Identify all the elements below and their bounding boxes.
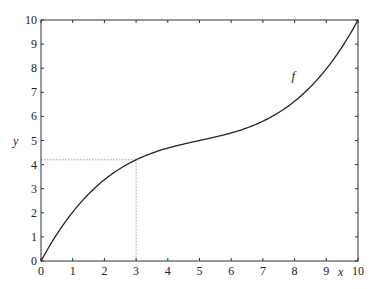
y-tick-label: 9: [31, 37, 37, 51]
y-tick-label: 6: [31, 109, 37, 123]
x-tick-label: 4: [165, 264, 171, 278]
x-tick-label: 8: [292, 264, 298, 278]
x-tick-label: 9: [323, 264, 329, 278]
y-tick-label: 2: [31, 206, 37, 220]
x-tick-label: 2: [101, 264, 107, 278]
y-tick-label: 1: [31, 230, 37, 244]
y-tick-label: 10: [25, 13, 37, 27]
y-tick-label: 5: [31, 134, 37, 148]
y-tick-label: 3: [31, 182, 37, 196]
x-axis-label: x: [337, 265, 344, 279]
x-axis-ticks: 012345678910: [38, 20, 364, 278]
y-tick-label: 4: [31, 158, 37, 172]
x-tick-label: 7: [260, 264, 266, 278]
x-tick-label: 1: [70, 264, 76, 278]
x-tick-label: 3: [133, 264, 139, 278]
chart: 012345678910 012345678910 f y x: [0, 0, 379, 289]
x-tick-label: 5: [197, 264, 203, 278]
curve-f: [41, 20, 358, 261]
x-tick-label: 6: [228, 264, 234, 278]
x-tick-label: 0: [38, 264, 44, 278]
y-tick-label: 0: [31, 254, 37, 268]
y-axis-ticks: 012345678910: [25, 13, 358, 268]
y-axis-label: y: [12, 134, 19, 148]
y-tick-label: 7: [31, 85, 37, 99]
dotted-guide-lines: [41, 160, 136, 261]
curve-label-f: f: [291, 68, 297, 83]
x-tick-label: 10: [352, 264, 364, 278]
y-tick-label: 8: [31, 61, 37, 75]
